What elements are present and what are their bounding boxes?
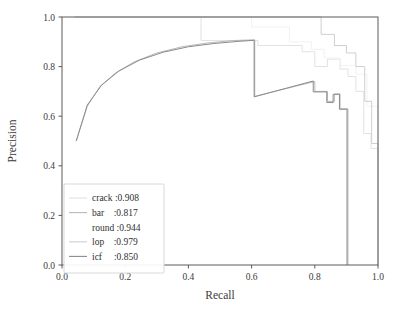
- y-axis-label: Precision: [6, 119, 18, 162]
- legend-label-icf: icf :0.850: [92, 252, 138, 262]
- legend-label-crack: crack :0.908: [92, 193, 139, 203]
- legend-label-bar: bar :0.817: [92, 208, 138, 218]
- x-axis-label: Recall: [205, 289, 234, 301]
- legend-label-round: round :0.944: [92, 223, 141, 233]
- x-tick-label-3: 0.6: [246, 272, 258, 282]
- x-tick-label-2: 0.4: [182, 272, 194, 282]
- x-tick-label-4: 0.8: [309, 272, 321, 282]
- y-tick-label-0: 0.0: [43, 261, 55, 271]
- x-tick-label-5: 1.0: [372, 272, 384, 282]
- y-tick-label-3: 0.6: [43, 112, 55, 122]
- legend: crack :0.908bar :0.817round :0.944lop :0…: [64, 184, 164, 273]
- y-tick-label-1: 0.2: [43, 211, 55, 221]
- y-tick-label-2: 0.4: [43, 161, 55, 171]
- legend-label-lop: lop :0.979: [92, 237, 138, 247]
- precision-recall-chart: 0.00.20.40.60.81.00.00.20.40.60.81.0 cra…: [0, 0, 402, 311]
- y-tick-label-4: 0.8: [43, 62, 55, 72]
- y-tick-label-5: 1.0: [43, 13, 55, 23]
- precision-recall-figure: 0.00.20.40.60.81.00.00.20.40.60.81.0 cra…: [0, 0, 402, 311]
